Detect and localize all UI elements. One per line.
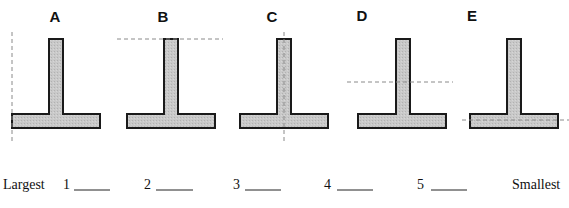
shape-b-label: B (158, 8, 169, 25)
rank-2-number: 2 (144, 177, 151, 192)
smallest-label: Smallest (512, 177, 560, 192)
shape-b: B (117, 8, 223, 128)
rank-3-number: 3 (233, 177, 240, 192)
shape-e: E (462, 7, 569, 128)
ranking-row: Largest 1 2 3 4 5 Smallest (3, 177, 560, 192)
t-section-e (470, 39, 558, 128)
shape-e-label: E (467, 7, 477, 24)
shape-a-label: A (50, 8, 61, 25)
shape-a: A (12, 8, 100, 141)
largest-label: Largest (3, 177, 45, 192)
t-section-b (127, 39, 215, 128)
t-section-a (12, 39, 100, 128)
shape-c-label: C (267, 8, 278, 25)
shape-d-label: D (357, 7, 368, 24)
t-section-d (358, 39, 446, 128)
rank-4-number: 4 (324, 177, 331, 192)
rank-1-number: 1 (63, 177, 70, 192)
shape-d: D (347, 7, 453, 128)
rank-5-number: 5 (417, 177, 424, 192)
t-sections-diagram: A B C D E Largest 1 2 3 4 5 (0, 0, 569, 208)
shape-c: C (240, 8, 328, 141)
